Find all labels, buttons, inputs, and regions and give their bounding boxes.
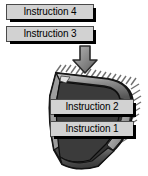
instruction-label-3-text: Instruction 3 (7, 27, 93, 41)
label-shadow (93, 8, 96, 22)
instruction-label-1-text: Instruction 1 (51, 122, 133, 136)
instruction-label-2-text: Instruction 2 (51, 100, 133, 114)
instruction-label-4-text: Instruction 4 (7, 5, 93, 19)
diagram-canvas: Instruction 4 Instruction 3 Instruction … (0, 0, 148, 176)
down-arrow-icon (73, 46, 97, 73)
label-shadow (93, 30, 96, 44)
instruction-label-3[interactable]: Instruction 3 (6, 26, 94, 42)
instruction-label-1[interactable]: Instruction 1 (50, 121, 134, 137)
label-shadow (133, 103, 136, 117)
instruction-label-4[interactable]: Instruction 4 (6, 4, 94, 20)
label-shadow (133, 125, 136, 139)
instruction-label-2[interactable]: Instruction 2 (50, 99, 134, 115)
